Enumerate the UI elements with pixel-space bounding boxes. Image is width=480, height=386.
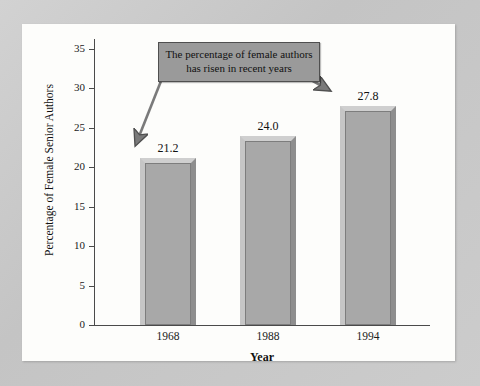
x-tick-label-1968: 1968 bbox=[123, 330, 213, 342]
y-tick: 35 bbox=[89, 49, 94, 50]
x-tick-label-1988: 1988 bbox=[223, 330, 313, 342]
bar-1994 bbox=[340, 106, 396, 325]
y-tick-label: 10 bbox=[74, 238, 85, 253]
y-tick: 20 bbox=[89, 167, 94, 168]
y-tick: 15 bbox=[89, 207, 94, 208]
annotation-line-2: has risen in recent years bbox=[163, 62, 315, 76]
y-tick-label: 5 bbox=[80, 278, 86, 293]
bar-value-label: 27.8 bbox=[333, 89, 403, 104]
y-tick-mark bbox=[89, 207, 94, 208]
y-tick: 25 bbox=[89, 128, 94, 129]
y-tick: 5 bbox=[89, 286, 94, 287]
y-tick-mark bbox=[89, 325, 94, 326]
y-tick-label: 25 bbox=[74, 120, 85, 135]
y-tick-mark bbox=[89, 167, 94, 168]
y-tick-mark bbox=[89, 246, 94, 247]
x-axis-title: Year bbox=[94, 350, 430, 365]
y-tick: 30 bbox=[89, 88, 94, 89]
chart-page: 05101520253035 Percentage of Female Seni… bbox=[0, 0, 480, 386]
bar-1988 bbox=[240, 136, 296, 325]
y-tick: 10 bbox=[89, 246, 94, 247]
bar-value-label: 24.0 bbox=[233, 119, 303, 134]
y-tick-mark bbox=[89, 88, 94, 89]
y-tick-label: 15 bbox=[74, 199, 85, 214]
bar-value-label: 21.2 bbox=[133, 141, 203, 156]
arrow-to-1968 bbox=[136, 76, 163, 144]
y-tick-mark bbox=[89, 49, 94, 50]
x-axis-line bbox=[94, 325, 430, 326]
y-tick-label: 35 bbox=[74, 41, 85, 56]
y-axis-title: Percentage of Female Senior Authors bbox=[43, 55, 55, 285]
y-tick-label: 30 bbox=[74, 80, 85, 95]
bar-1968 bbox=[140, 158, 196, 325]
y-axis-line bbox=[94, 39, 95, 326]
x-tick-label-1994: 1994 bbox=[323, 330, 413, 342]
y-tick-mark bbox=[89, 128, 94, 129]
y-tick-label: 20 bbox=[74, 159, 85, 174]
y-tick: 0 bbox=[89, 325, 94, 326]
annotation-callout: The percentage of female authors has ris… bbox=[158, 42, 320, 82]
annotation-line-1: The percentage of female authors bbox=[163, 48, 315, 62]
chart-panel: 05101520253035 Percentage of Female Seni… bbox=[22, 24, 455, 361]
plot-area: 05101520253035 Percentage of Female Seni… bbox=[22, 24, 455, 361]
y-tick-label: 0 bbox=[80, 317, 86, 332]
y-tick-mark bbox=[89, 286, 94, 287]
